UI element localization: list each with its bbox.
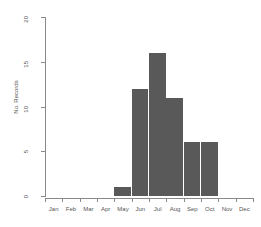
x-axis-tick-label: Apr xyxy=(101,206,110,212)
x-axis-tick-label: Sep xyxy=(187,206,198,212)
y-axis-tick-label: 10 xyxy=(23,106,29,132)
bar-chart: No. Records 05101520 JanFebMarAprMayJunJ… xyxy=(0,0,261,227)
x-axis-tick xyxy=(149,198,150,202)
y-axis-title: No. Records xyxy=(13,67,19,127)
x-axis-tick-label: Jan xyxy=(49,206,59,212)
bar xyxy=(114,187,131,196)
x-axis-tick xyxy=(253,198,254,202)
x-axis-tick xyxy=(80,198,81,202)
x-axis-tick xyxy=(45,198,46,202)
x-axis-tick xyxy=(97,198,98,202)
bar xyxy=(184,142,201,196)
x-axis-tick xyxy=(62,198,63,202)
bar xyxy=(132,89,149,196)
x-axis-tick-label: Jul xyxy=(154,206,162,212)
x-axis-tick xyxy=(132,198,133,202)
x-axis-tick-label: May xyxy=(117,206,128,212)
x-axis-tick-label: Aug xyxy=(170,206,181,212)
x-axis-tick xyxy=(236,198,237,202)
x-axis-tick-label: Mar xyxy=(83,206,93,212)
y-axis-tick-label: 0 xyxy=(23,195,29,221)
x-axis-tick-label: Oct xyxy=(205,206,214,212)
x-axis-tick-label: Nov xyxy=(222,206,233,212)
y-axis-tick-label: 15 xyxy=(23,61,29,87)
bar xyxy=(201,142,218,196)
bar xyxy=(149,53,166,196)
x-axis-tick-label: Dec xyxy=(239,206,250,212)
x-axis-tick-label: Feb xyxy=(66,206,76,212)
x-axis-tick-label: Jun xyxy=(135,206,145,212)
y-axis-tick xyxy=(41,196,45,197)
plot-area xyxy=(45,17,253,196)
x-axis-tick xyxy=(201,198,202,202)
y-axis-tick-label: 5 xyxy=(23,150,29,176)
y-axis-tick-label: 20 xyxy=(23,16,29,42)
x-axis-tick xyxy=(166,198,167,202)
x-axis-tick xyxy=(114,198,115,202)
x-axis-tick xyxy=(218,198,219,202)
x-axis-tick xyxy=(184,198,185,202)
bar xyxy=(166,98,183,196)
